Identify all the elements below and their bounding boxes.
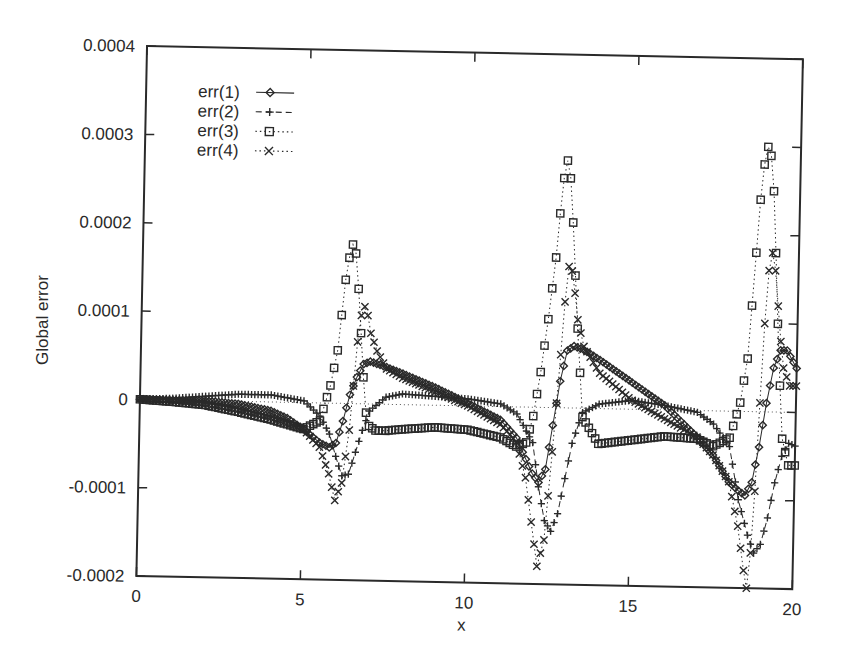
- cross-marker: [338, 479, 345, 486]
- legend-label: err(4): [197, 141, 239, 161]
- series-line: [138, 338, 797, 497]
- y-axis-label: Global error: [33, 275, 52, 365]
- plus-marker: [767, 497, 774, 504]
- plus-marker: [771, 479, 778, 486]
- cross-marker: [571, 290, 578, 297]
- x-tick-label: 10: [454, 593, 473, 612]
- plus-marker: [744, 532, 751, 539]
- legend-line-sample: [255, 131, 293, 132]
- square-marker: [557, 210, 564, 217]
- plus-marker: [589, 404, 596, 411]
- plus-marker: [735, 496, 742, 503]
- cross-marker: [527, 518, 534, 525]
- plus-marker: [355, 438, 362, 445]
- legend-item: err(4): [197, 141, 293, 162]
- x-tick-label: 0: [131, 587, 141, 606]
- plus-marker: [775, 466, 782, 473]
- cross-marker: [325, 470, 332, 477]
- y-tick-label: 0.0003: [81, 124, 133, 144]
- plus-marker: [586, 406, 593, 413]
- cross-marker: [537, 549, 544, 556]
- square-marker: [320, 405, 327, 412]
- plus-marker: [538, 500, 545, 507]
- cross-marker: [557, 351, 564, 358]
- x-tick-label: 15: [618, 597, 637, 616]
- legend-line-sample: [256, 112, 294, 113]
- y-tick-label: -0.0001: [68, 477, 126, 497]
- plus-marker: [729, 461, 736, 468]
- cross-marker: [319, 452, 326, 459]
- cross-marker: [361, 303, 368, 310]
- cross-marker: [540, 536, 547, 543]
- square-marker: [757, 196, 764, 203]
- y-tick-label: 0.0002: [79, 212, 131, 232]
- legend-line-sample: [255, 151, 293, 152]
- square-marker: [765, 143, 772, 150]
- legend-line-sample: [256, 92, 294, 93]
- square-marker: [533, 390, 540, 397]
- plus-marker: [764, 514, 771, 521]
- plus-marker: [558, 492, 565, 499]
- plus-marker: [335, 462, 342, 469]
- cross-marker: [525, 496, 532, 503]
- plus-marker: [561, 475, 568, 482]
- legend-item: err(3): [197, 121, 293, 142]
- plus-marker: [565, 457, 572, 464]
- plus-marker: [348, 460, 355, 467]
- legend-item: err(1): [198, 82, 294, 103]
- plus-marker: [332, 453, 339, 460]
- cross-marker: [370, 339, 377, 346]
- cross-marker: [335, 488, 342, 495]
- cross-marker: [358, 312, 365, 319]
- plus-marker: [532, 461, 539, 468]
- cross-marker: [783, 373, 790, 380]
- cross-marker: [322, 461, 329, 468]
- cross-marker: [328, 483, 335, 490]
- plus-marker: [329, 441, 336, 448]
- plus-marker: [738, 508, 745, 515]
- cross-marker: [765, 267, 772, 274]
- plus-marker: [732, 478, 739, 485]
- plus-marker: [592, 402, 599, 409]
- plus-marker: [550, 519, 557, 526]
- legend-label: err(2): [198, 102, 240, 122]
- plus-marker: [352, 449, 359, 456]
- cross-marker: [561, 298, 568, 305]
- x-axis-label: x: [457, 615, 466, 634]
- legend: err(1)err(2)err(3)err(4): [197, 82, 295, 161]
- cross-marker: [731, 508, 738, 515]
- cross-marker: [522, 474, 529, 481]
- series-layer: [133, 131, 805, 593]
- cross-marker: [761, 320, 768, 327]
- plus-marker: [572, 429, 579, 436]
- plus-marker: [782, 446, 789, 453]
- legend-label: err(3): [197, 121, 239, 141]
- y-axis-ticks: -0.0002-0.000100.00010.00020.00030.0004: [67, 36, 804, 599]
- global-error-chart: -0.0002-0.000100.00010.00020.00030.0004 …: [0, 0, 842, 664]
- square-marker: [768, 152, 775, 159]
- legend-label: err(1): [198, 82, 240, 102]
- cross-marker: [737, 545, 744, 552]
- cross-marker: [740, 567, 747, 574]
- cross-marker: [772, 267, 779, 274]
- plus-marker: [579, 409, 586, 416]
- y-tick-label: 0: [118, 390, 128, 409]
- square-marker: [323, 394, 330, 401]
- plus-marker: [741, 520, 748, 527]
- cross-marker: [265, 147, 273, 155]
- plus-marker: [554, 510, 561, 517]
- cross-marker: [734, 523, 741, 530]
- plot-root: -0.0002-0.000100.00010.00020.00030.0004 …: [66, 36, 813, 642]
- y-tick-label: -0.0002: [67, 566, 125, 586]
- x-tick-label: 5: [295, 590, 305, 609]
- y-tick-label: 0.0004: [83, 36, 135, 56]
- square-marker: [357, 329, 364, 336]
- plus-marker: [266, 108, 274, 116]
- square-marker: [530, 412, 537, 419]
- y-tick-label: 0.0001: [78, 301, 130, 321]
- cross-marker: [331, 497, 338, 504]
- x-tick-label: 20: [782, 600, 801, 619]
- cross-marker: [342, 453, 349, 460]
- plus-marker: [568, 440, 575, 447]
- plus-marker: [760, 527, 767, 534]
